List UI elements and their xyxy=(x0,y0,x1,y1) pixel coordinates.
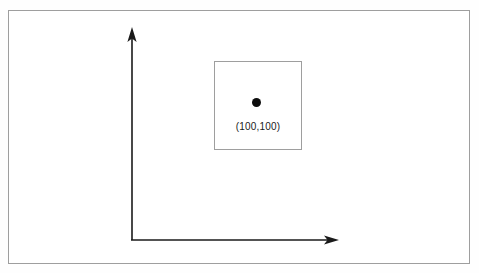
point-coordinate-label: (100,100) xyxy=(214,121,302,133)
figure-canvas: (100,100) xyxy=(0,0,479,273)
point-marker xyxy=(252,98,261,107)
